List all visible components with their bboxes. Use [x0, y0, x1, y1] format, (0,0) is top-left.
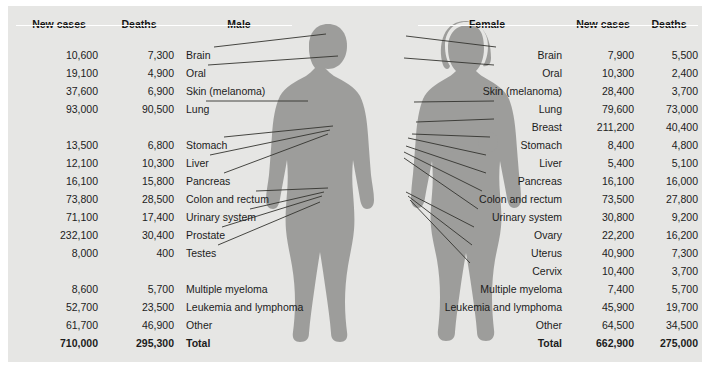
table-row: 8,000400Testes [8, 244, 298, 262]
female-new-cell: 30,800 [572, 208, 634, 226]
male-new-cell: 12,100 [20, 154, 98, 172]
female-site-cell: Stomach [412, 136, 562, 154]
table-row: 52,70023,500Leukemia and lymphoma [8, 298, 298, 316]
female-deaths-cell: 4,800 [640, 136, 698, 154]
table-row: Brain7,9005,500 [412, 46, 702, 64]
table-row: 16,10015,800Pancreas [8, 172, 298, 190]
female-deaths-cell: 5,100 [640, 154, 698, 172]
female-deaths-cell: 40,400 [640, 118, 698, 136]
male-site-cell: Stomach [186, 136, 227, 154]
male-new-cell: 232,100 [20, 226, 98, 244]
female-site-cell: Multiple myeloma [412, 280, 562, 298]
male-deaths-cell: 4,900 [104, 64, 174, 82]
female-new-cell: 45,900 [572, 298, 634, 316]
table-row: Breast211,20040,400 [412, 118, 702, 136]
table-row: 232,10030,400Prostate [8, 226, 298, 244]
female-new-cell: 10,400 [572, 262, 634, 280]
female-site-cell: Oral [412, 64, 562, 82]
male-site-cell: Oral [186, 64, 206, 82]
table-row: 37,6006,900Skin (melanoma) [8, 82, 298, 100]
table-row: Uterus40,9007,300 [412, 244, 702, 262]
male-header-rule [16, 25, 292, 26]
male-new-cell: 710,000 [20, 334, 98, 352]
female-new-cell: 79,600 [572, 100, 634, 118]
infographic-canvas: New cases Deaths Male 10,6007,300Brain19… [0, 0, 710, 378]
table-row: 12,10010,300Liver [8, 154, 298, 172]
female-site-cell: Pancreas [412, 172, 562, 190]
female-site-cell: Leukemia and lymphoma [412, 298, 562, 316]
male-new-cell: 37,600 [20, 82, 98, 100]
female-site-cell: Total [412, 334, 562, 352]
table-row: 71,10017,400Urinary system [8, 208, 298, 226]
female-site-cell: Liver [412, 154, 562, 172]
female-new-cell: 16,100 [572, 172, 634, 190]
table-row: Skin (melanoma)28,4003,700 [412, 82, 702, 100]
table-row: Leukemia and lymphoma45,90019,700 [412, 298, 702, 316]
male-new-cell: 19,100 [20, 64, 98, 82]
male-new-cell: 73,800 [20, 190, 98, 208]
male-site-cell: Colon and rectum [186, 190, 269, 208]
female-deaths-cell: 3,700 [640, 82, 698, 100]
male-header-new-cases: New cases [20, 18, 98, 30]
male-site-cell: Leukemia and lymphoma [186, 298, 303, 316]
male-new-cell: 93,000 [20, 100, 98, 118]
male-deaths-cell: 10,300 [104, 154, 174, 172]
table-row: Oral10,3002,400 [412, 64, 702, 82]
male-deaths-cell: 28,500 [104, 190, 174, 208]
male-deaths-cell: 46,900 [104, 316, 174, 334]
table-row: 93,00090,500Lung [8, 100, 298, 118]
male-deaths-cell: 7,300 [104, 46, 174, 64]
male-site-cell: Urinary system [186, 208, 256, 226]
female-site-cell: Other [412, 316, 562, 334]
male-deaths-cell: 6,900 [104, 82, 174, 100]
table-row: Ovary22,20016,200 [412, 226, 702, 244]
female-deaths-cell: 2,400 [640, 64, 698, 82]
female-header-new-cases: New cases [572, 18, 634, 30]
female-new-cell: 64,500 [572, 316, 634, 334]
male-site-cell: Testes [186, 244, 216, 262]
male-site-cell: Liver [186, 154, 209, 172]
male-site-cell: Skin (melanoma) [186, 82, 265, 100]
female-deaths-cell: 5,700 [640, 280, 698, 298]
chart-panel: New cases Deaths Male 10,6007,300Brain19… [8, 6, 702, 362]
table-row: Pancreas16,10016,000 [412, 172, 702, 190]
female-site-cell: Colon and rectum [412, 190, 562, 208]
table-row: 13,5006,800Stomach [8, 136, 298, 154]
female-deaths-cell: 73,000 [640, 100, 698, 118]
female-site-cell: Breast [412, 118, 562, 136]
female-site-cell: Urinary system [412, 208, 562, 226]
male-new-cell: 8,000 [20, 244, 98, 262]
female-site-cell: Skin (melanoma) [412, 82, 562, 100]
female-deaths-cell: 9,200 [640, 208, 698, 226]
female-site-cell: Brain [412, 46, 562, 64]
table-row: Multiple myeloma7,4005,700 [412, 280, 702, 298]
male-site-cell: Lung [186, 100, 209, 118]
table-row: Stomach8,4004,800 [412, 136, 702, 154]
female-header-deaths: Deaths [640, 18, 698, 30]
female-deaths-cell: 16,200 [640, 226, 698, 244]
female-new-cell: 7,900 [572, 46, 634, 64]
female-new-cell: 7,400 [572, 280, 634, 298]
male-new-cell: 71,100 [20, 208, 98, 226]
table-row: Liver5,4005,100 [412, 154, 702, 172]
male-site-cell: Brain [186, 46, 211, 64]
male-site-cell: Prostate [186, 226, 225, 244]
male-site-cell: Other [186, 316, 212, 334]
female-table-header: Female New cases Deaths [412, 18, 702, 37]
table-row: 73,80028,500Colon and rectum [8, 190, 298, 208]
male-deaths-cell: 90,500 [104, 100, 174, 118]
female-deaths-cell: 19,700 [640, 298, 698, 316]
male-new-cell: 13,500 [20, 136, 98, 154]
male-deaths-cell: 30,400 [104, 226, 174, 244]
female-deaths-cell: 275,000 [640, 334, 698, 352]
table-row: Lung79,60073,000 [412, 100, 702, 118]
male-new-cell: 61,700 [20, 316, 98, 334]
female-deaths-cell: 16,000 [640, 172, 698, 190]
table-row: Urinary system30,8009,200 [412, 208, 702, 226]
female-new-cell: 5,400 [572, 154, 634, 172]
female-new-cell: 211,200 [572, 118, 634, 136]
table-row: Total662,900275,000 [412, 334, 702, 352]
male-table-header: New cases Deaths Male [8, 18, 298, 37]
female-deaths-cell: 34,500 [640, 316, 698, 334]
female-new-cell: 8,400 [572, 136, 634, 154]
